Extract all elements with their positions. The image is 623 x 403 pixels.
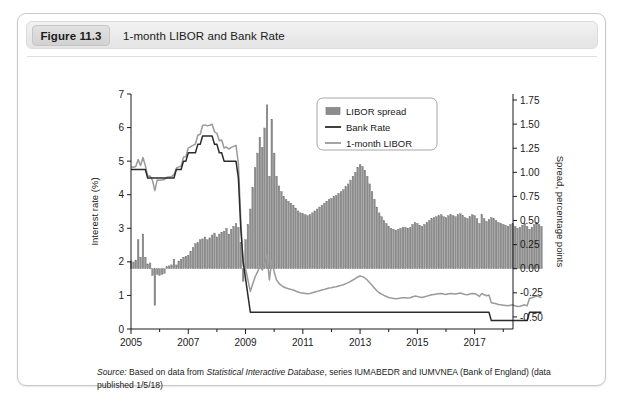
spread-bar — [307, 216, 309, 269]
spread-bar — [254, 168, 256, 269]
spread-bar — [137, 240, 139, 269]
spread-bar — [364, 170, 366, 268]
spread-bar — [426, 222, 428, 268]
y-tick-label-right: 1.75 — [520, 95, 540, 106]
spread-bar — [211, 235, 213, 269]
screenshot-page: Figure 11.3 1-month LIBOR and Bank Rate … — [0, 0, 623, 403]
spread-bar — [221, 232, 223, 269]
y-tick-label-left: 7 — [118, 89, 124, 100]
spread-bar — [288, 201, 290, 268]
spread-bar — [171, 265, 173, 269]
spread-bar — [199, 240, 201, 269]
y-tick-label-left: 0 — [118, 324, 124, 335]
spread-bar — [417, 223, 419, 268]
y-tick-label-left: 3 — [118, 223, 124, 234]
spread-bar — [135, 260, 137, 269]
spread-bar — [369, 184, 371, 269]
legend-label: 1-month LIBOR — [346, 138, 412, 149]
spread-bar — [428, 221, 430, 269]
spread-bar — [216, 237, 218, 269]
spread-bar — [409, 227, 411, 268]
spread-bar — [476, 219, 478, 269]
spread-bar — [133, 262, 135, 269]
spread-bar — [271, 119, 273, 268]
spread-bar — [156, 269, 158, 275]
spread-bar — [514, 226, 516, 268]
y-tick-label-right: 0.00 — [520, 263, 540, 274]
spread-bar — [204, 237, 206, 269]
source-italic-db: Statistical Interactive Database — [206, 367, 324, 377]
spread-bar — [412, 224, 414, 268]
spread-bar — [161, 269, 163, 275]
spread-bar — [402, 227, 404, 268]
spread-bar — [390, 228, 392, 268]
spread-bar — [185, 256, 187, 269]
spread-bar — [292, 205, 294, 269]
figure-card: Figure 11.3 1-month LIBOR and Bank Rate … — [17, 13, 606, 386]
y-axis-title-right: Spread, percentage points — [555, 156, 566, 268]
spread-bar — [295, 208, 297, 269]
spread-bar — [436, 217, 438, 269]
chart-legend: LIBOR spreadBank Rate1-month LIBOR — [317, 98, 437, 150]
spread-bar — [304, 215, 306, 269]
spread-bar — [505, 225, 507, 268]
spread-bar — [333, 196, 335, 268]
spread-bar — [338, 194, 340, 269]
spread-bar — [178, 261, 180, 269]
spread-bar — [152, 269, 154, 276]
spread-bar — [421, 226, 423, 268]
spread-bar — [233, 226, 235, 268]
spread-bar — [154, 269, 156, 306]
spread-bar — [226, 228, 228, 268]
legend-label: Bank Rate — [346, 122, 390, 133]
spread-bar — [266, 105, 268, 269]
y-tick-label-left: 5 — [118, 156, 124, 167]
libor-bank-rate-chart: 01234567-0.50-0.250.000.250.500.751.001.… — [27, 62, 597, 352]
spread-bar — [445, 218, 447, 269]
source-label: Source: — [97, 367, 127, 377]
spread-bar — [352, 176, 354, 269]
spread-bar — [500, 223, 502, 268]
spread-bar — [495, 221, 497, 269]
spread-bar — [388, 226, 390, 268]
x-tick-label: 2011 — [292, 337, 314, 348]
spread-bar — [223, 231, 225, 269]
legend-swatch-bar — [326, 108, 340, 115]
spread-bar — [316, 209, 318, 269]
spread-bar — [433, 218, 435, 269]
spread-bar — [164, 269, 166, 274]
spread-bar — [285, 199, 287, 268]
spread-bar — [166, 267, 168, 269]
spread-bar — [314, 211, 316, 269]
spread-bar — [168, 266, 170, 269]
spread-bar — [481, 215, 483, 269]
spread-bar — [331, 198, 333, 268]
y-tick-label-right: -0.50 — [520, 312, 543, 323]
x-tick-label: 2007 — [177, 337, 200, 348]
y-tick-label-right: 0.75 — [520, 191, 540, 202]
spread-bar — [510, 224, 512, 268]
spread-bar — [218, 234, 220, 269]
spread-bar — [462, 216, 464, 269]
spread-bar — [448, 216, 450, 269]
spread-bar — [395, 230, 397, 269]
spread-bar — [378, 213, 380, 269]
spread-bar — [209, 238, 211, 269]
x-tick-label: 2015 — [406, 337, 429, 348]
spread-bar — [507, 226, 509, 268]
spread-bar — [273, 153, 275, 269]
y-axis-title-left: Interest rate (%) — [89, 177, 100, 245]
spread-bar — [400, 228, 402, 268]
spread-bar — [257, 153, 259, 269]
spread-bar — [300, 213, 302, 269]
spread-bar — [457, 215, 459, 269]
spread-bar — [452, 216, 454, 269]
spread-bar — [383, 221, 385, 269]
spread-bar — [431, 219, 433, 269]
spread-bar — [517, 228, 519, 268]
spread-bar — [474, 216, 476, 269]
spread-bar — [228, 234, 230, 269]
spread-bar — [354, 172, 356, 268]
spread-bar — [187, 255, 189, 269]
spread-bar — [479, 223, 481, 268]
